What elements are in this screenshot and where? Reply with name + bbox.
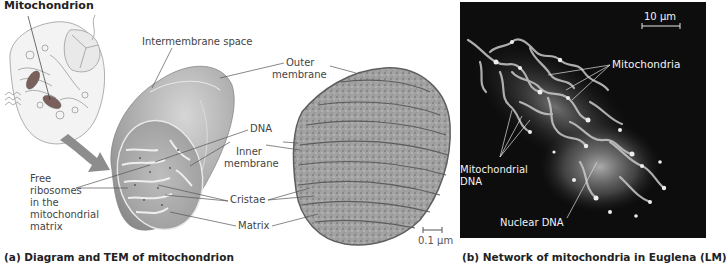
lm-scale-bar xyxy=(642,23,680,29)
lm-micrograph xyxy=(460,2,706,238)
caption-a: (a) Diagram and TEM of mitochondrion xyxy=(4,251,234,263)
lm-micrograph-panel: 10 µm Mitochondria Mitochondrial DNA Nuc… xyxy=(460,2,706,238)
label-free-ribosomes-line3: in the xyxy=(30,197,59,209)
label-outer-membrane-line1: Outer xyxy=(286,57,314,69)
label-cristae: Cristae xyxy=(230,194,265,206)
tem-scale-bar xyxy=(423,227,442,233)
caption-b: (b) Network of mitochondria in Euglena (… xyxy=(462,251,727,263)
label-nuclear-dna: Nuclear DNA xyxy=(500,217,564,229)
label-free-ribosomes-line1: Free xyxy=(30,173,51,185)
lm-scale-bar-label: 10 µm xyxy=(644,11,676,23)
label-inner-membrane-line2: membrane xyxy=(224,158,279,170)
tem-scale-bar-label: 0.1 µm xyxy=(418,235,453,247)
label-outer-membrane-line2: membrane xyxy=(272,69,327,81)
label-free-ribosomes-line5: matrix xyxy=(30,221,63,233)
mitochondrion-title: Mitochondrion xyxy=(4,0,94,12)
label-mitochondria: Mitochondria xyxy=(612,58,680,70)
label-mitochondrial-dna-line1: Mitochondrial xyxy=(460,164,528,176)
label-inner-membrane-line1: Inner xyxy=(236,146,262,158)
label-mitochondrial-dna-line2: DNA xyxy=(460,176,482,188)
cell-drawing xyxy=(5,15,105,144)
label-free-ribosomes-line4: mitochondrial xyxy=(30,209,99,221)
label-intermembrane-space: Intermembrane space xyxy=(142,36,253,48)
zoom-arrow xyxy=(60,134,110,172)
label-dna: DNA xyxy=(250,123,272,135)
label-free-ribosomes-line2: ribosomes xyxy=(30,185,82,197)
tem-micrograph xyxy=(294,68,451,245)
label-matrix: Matrix xyxy=(238,220,269,232)
